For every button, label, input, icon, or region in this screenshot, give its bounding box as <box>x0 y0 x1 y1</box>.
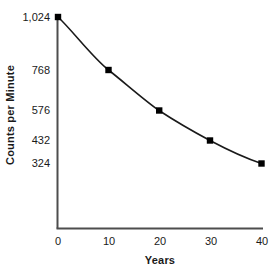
x-tick-label-0: 0 <box>55 235 61 247</box>
data-point-marker <box>156 107 162 113</box>
x-tick-label-40: 40 <box>256 235 268 247</box>
data-point-marker <box>207 137 213 143</box>
data-point-marker <box>258 160 264 166</box>
x-tick-label-10: 10 <box>103 235 115 247</box>
y-axis-title-container: Counts per Minute <box>0 0 20 229</box>
x-tick-label-20: 20 <box>154 235 166 247</box>
x-axis-title: Years <box>145 254 175 266</box>
data-point-marker <box>105 67 111 73</box>
x-tick-label-30: 30 <box>205 235 217 247</box>
decay-curve <box>58 17 262 164</box>
data-point-marker <box>55 14 61 20</box>
chart-figure: 1,024 768 576 432 324 0 10 20 30 40 Coun… <box>0 0 275 269</box>
y-axis-title: Counts per Minute <box>4 65 16 165</box>
x-axis-title-container: Years <box>57 250 263 268</box>
